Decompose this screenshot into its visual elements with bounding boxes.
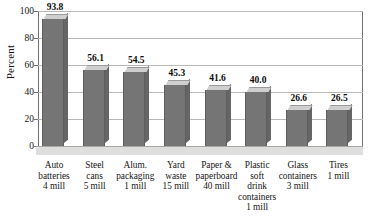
bar-side-face	[267, 86, 271, 143]
category-label-line: 1 mill	[311, 171, 365, 182]
bar[interactable]	[326, 110, 348, 146]
bar-front-face	[83, 70, 105, 146]
bar-value-label: 56.1	[79, 53, 113, 63]
bar-value-label: 41.6	[201, 73, 235, 83]
bar[interactable]	[205, 90, 227, 146]
bar-front-face	[123, 72, 145, 146]
category-label: Tires1 mill	[311, 160, 365, 181]
bar-group[interactable]: 40.0	[245, 11, 279, 146]
tick-mark-60	[34, 65, 38, 66]
bar-group[interactable]: 45.3	[164, 11, 198, 146]
bar-top-face	[165, 80, 190, 85]
bar-group[interactable]: 54.5	[123, 11, 157, 146]
y-tick-label: 80	[0, 33, 34, 43]
bar-side-face	[227, 84, 231, 143]
category-label-line: containers	[230, 192, 284, 203]
bar-group[interactable]: 41.6	[205, 11, 239, 146]
tick-mark-20	[34, 119, 38, 120]
bar-value-label: 54.5	[119, 55, 153, 65]
tick-mark-80	[34, 38, 38, 39]
bar-top-face	[287, 105, 312, 110]
bar[interactable]	[245, 92, 267, 146]
bar-front-face	[205, 90, 227, 146]
bar-top-face	[125, 67, 150, 72]
bar-side-face	[64, 13, 68, 143]
bar-group[interactable]: 26.5	[326, 11, 360, 146]
bar-side-face	[186, 79, 190, 143]
bar-front-face	[286, 110, 308, 146]
y-axis-tick-labels: 020406080100	[0, 11, 34, 146]
bar-side-face	[145, 66, 149, 143]
bar-value-label: 26.6	[282, 93, 316, 103]
chart-floor	[36, 146, 363, 158]
bar[interactable]	[123, 72, 145, 146]
bar[interactable]	[42, 19, 64, 146]
bar-group[interactable]: 56.1	[83, 11, 117, 146]
bar-group[interactable]: 93.8	[42, 11, 76, 146]
bar-front-face	[245, 92, 267, 146]
y-tick-label: 60	[0, 60, 34, 70]
y-tick-label: 100	[0, 6, 34, 16]
bar-chart: Percent 020406080100 93.856.154.545.341.…	[0, 0, 373, 221]
category-label-line: Tires	[311, 160, 365, 171]
y-tick-label: 40	[0, 87, 34, 97]
bar-value-label: 93.8	[38, 2, 72, 12]
y-tick-label: 20	[0, 114, 34, 124]
bar-top-face	[84, 65, 109, 70]
x-axis-category-labels: Autobatteries4 millSteelcans5 millAlum.p…	[38, 160, 363, 221]
bar[interactable]	[83, 70, 105, 146]
bar-front-face	[42, 19, 64, 146]
bar-top-face	[206, 85, 231, 90]
bar[interactable]	[164, 85, 186, 146]
tick-mark-40	[34, 92, 38, 93]
bar-value-label: 45.3	[160, 68, 194, 78]
bar-front-face	[326, 110, 348, 146]
bar[interactable]	[286, 110, 308, 146]
bar-top-face	[328, 105, 353, 110]
category-label-line: 1 mill	[230, 202, 284, 213]
bar-top-face	[247, 87, 272, 92]
bar-value-label: 40.0	[241, 75, 275, 85]
bar-top-face	[43, 14, 68, 19]
category-label-line: 3 mill	[271, 181, 325, 192]
bar-front-face	[164, 85, 186, 146]
plot-area: 93.856.154.545.341.640.026.626.5	[38, 11, 363, 146]
bar-side-face	[105, 64, 109, 143]
bar-value-label: 26.5	[322, 93, 356, 103]
y-tick-label: 0	[0, 141, 34, 151]
bar-group[interactable]: 26.6	[286, 11, 320, 146]
